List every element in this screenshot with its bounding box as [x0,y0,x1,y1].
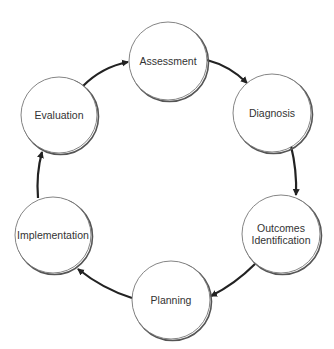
arrow-outcomes-identification-to-planning [211,264,255,296]
node-label: Assessment [139,55,196,67]
node-label: Implementation [17,229,89,241]
node-assessment: Assessment [129,22,209,102]
arrow-implementation-to-evaluation [38,152,43,198]
node-label: Diagnosis [249,107,295,119]
nursing-process-cycle-diagram: AssessmentDiagnosisOutcomesIdentificatio… [0,0,334,349]
node-planning: Planning [132,261,212,341]
node-outcomes-identification: OutcomesIdentification [242,195,322,275]
node-label: Outcomes [257,222,305,234]
node-label: Planning [151,294,192,306]
node-implementation: Implementation [15,197,93,275]
node-label: Evaluation [34,109,83,121]
arrow-assessment-to-diagnosis [207,60,247,83]
arrow-evaluation-to-assessment [83,62,128,86]
node-diagnosis: Diagnosis [233,74,313,154]
node-evaluation: Evaluation [21,77,99,155]
arrow-diagnosis-to-outcomes-identification [291,146,296,195]
arrow-planning-to-implementation [78,269,132,298]
node-label: Identification [252,234,311,246]
cycle-nodes: AssessmentDiagnosisOutcomesIdentificatio… [15,22,322,341]
